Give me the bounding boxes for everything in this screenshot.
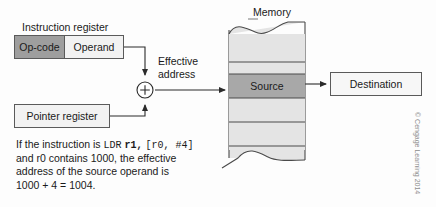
effective-address-label-line1: Effective: [158, 55, 198, 67]
operand-to-adder-connector: [124, 47, 145, 75]
destination-box: Destination: [330, 72, 422, 96]
figure-canvas: Instruction register Op-code Operand Poi…: [0, 0, 436, 207]
instruction-register-caption: Instruction register: [22, 21, 108, 33]
copyright-notice: © Cengage Learning 2014: [414, 112, 421, 192]
explanation-prefix: If the instruction is: [16, 138, 104, 150]
code-operand: [r0, #4]: [145, 140, 193, 151]
opcode-field: Op-code: [14, 35, 65, 59]
operand-field: Operand: [64, 35, 124, 59]
adder-node: [136, 81, 154, 99]
pointer-to-adder-connector: [110, 105, 145, 116]
code-ldr: LDR: [104, 140, 122, 151]
explanation-text: If the instruction is LDR r1, [r0, #4] a…: [16, 138, 216, 192]
code-r1: r1,: [124, 140, 142, 151]
explanation-line-4: 1000 + 4 = 1004.: [16, 179, 216, 192]
explanation-line-3: address of the source operand is: [16, 165, 216, 178]
memory-caption: Memory: [253, 6, 291, 18]
pointer-register-box: Pointer register: [14, 104, 110, 128]
explanation-line-2: and r0 contains 1000, the effective: [16, 152, 216, 165]
memory-row-separators: [229, 22, 305, 170]
explanation-line-1: If the instruction is LDR r1, [r0, #4]: [16, 138, 216, 152]
effective-address-label-line2: address: [158, 68, 195, 80]
